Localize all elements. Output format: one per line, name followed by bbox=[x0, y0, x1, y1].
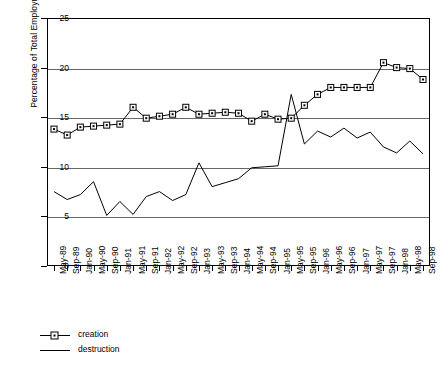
x-tick-mark bbox=[146, 266, 147, 271]
data-point-marker-center bbox=[396, 67, 398, 69]
x-tick-mark bbox=[383, 266, 384, 271]
series-plot bbox=[47, 18, 430, 266]
x-tick-mark bbox=[225, 266, 226, 271]
chart-root: Percentage of Total Employment 051015202… bbox=[0, 0, 443, 366]
data-point-marker-center bbox=[79, 126, 81, 128]
x-tick-mark bbox=[291, 266, 292, 271]
data-point-marker-center bbox=[66, 134, 68, 136]
x-tick-mark bbox=[239, 266, 240, 271]
x-tick-mark bbox=[344, 266, 345, 271]
data-point-marker-center bbox=[264, 113, 266, 115]
data-point-marker-center bbox=[132, 106, 134, 108]
x-tick-mark bbox=[212, 266, 213, 271]
x-tick-mark bbox=[410, 266, 411, 271]
data-point-marker-center bbox=[251, 120, 253, 122]
legend-label-creation: creation bbox=[78, 329, 108, 339]
x-tick-mark bbox=[186, 266, 187, 271]
x-tick-mark bbox=[199, 266, 200, 271]
data-point-marker-center bbox=[224, 111, 226, 113]
data-point-marker-center bbox=[106, 124, 108, 126]
data-point-marker-center bbox=[277, 118, 279, 120]
data-point-marker-center bbox=[119, 123, 121, 125]
y-tick-mark bbox=[41, 266, 47, 267]
data-point-marker-center bbox=[172, 113, 174, 115]
legend-swatch-destruction bbox=[40, 350, 70, 352]
x-tick-mark bbox=[173, 266, 174, 271]
x-tick-mark bbox=[278, 266, 279, 271]
data-point-marker-center bbox=[409, 68, 411, 70]
x-tick-mark bbox=[159, 266, 160, 271]
data-point-marker-center bbox=[303, 104, 305, 106]
data-point-marker-center bbox=[290, 117, 292, 119]
data-point-marker-center bbox=[369, 86, 371, 88]
legend-label-destruction: destruction bbox=[78, 344, 120, 354]
data-point-marker-center bbox=[422, 79, 424, 81]
x-tick-mark bbox=[370, 266, 371, 271]
y-axis-title: Percentage of Total Employment bbox=[29, 0, 39, 165]
data-point-marker-center bbox=[330, 86, 332, 88]
x-tick-mark bbox=[331, 266, 332, 271]
data-point-marker-center bbox=[145, 117, 147, 119]
x-tick-mark bbox=[120, 266, 121, 271]
data-point-marker-center bbox=[211, 112, 213, 114]
x-tick-mark bbox=[423, 266, 424, 271]
x-tick-mark bbox=[107, 266, 108, 271]
x-tick-mark bbox=[304, 266, 305, 271]
x-tick-mark bbox=[357, 266, 358, 271]
x-tick-mark bbox=[252, 266, 253, 271]
x-tick-mark bbox=[397, 266, 398, 271]
x-tick-mark bbox=[80, 266, 81, 271]
data-point-marker-center bbox=[53, 128, 55, 130]
x-tick-mark bbox=[318, 266, 319, 271]
data-point-marker-center bbox=[93, 125, 95, 127]
data-point-marker-center bbox=[343, 86, 345, 88]
data-point-marker-center bbox=[238, 112, 240, 114]
data-point-marker-center bbox=[382, 62, 384, 64]
x-tick-mark bbox=[133, 266, 134, 271]
data-point-marker-center bbox=[356, 86, 358, 88]
data-point-marker-center bbox=[317, 93, 319, 95]
data-point-marker-center bbox=[158, 115, 160, 117]
x-tick-mark bbox=[265, 266, 266, 271]
x-tick-mark bbox=[54, 266, 55, 271]
x-tick-mark bbox=[94, 266, 95, 271]
data-point-marker-center bbox=[185, 106, 187, 108]
legend-swatch-creation bbox=[40, 335, 70, 337]
x-tick-mark bbox=[67, 266, 68, 271]
data-point-marker-center bbox=[198, 113, 200, 115]
